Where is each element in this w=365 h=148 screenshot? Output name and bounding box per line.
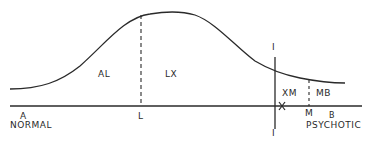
point-label-M: M [305, 109, 313, 118]
cutoff-top-label: I [272, 43, 275, 52]
region-label-XM: XM [282, 89, 297, 98]
point-label-L: L [138, 112, 144, 121]
region-label-MB: MB [316, 89, 331, 98]
region-label-LX: LX [165, 70, 177, 79]
axis-caption-psychotic: PSYCHOTIC [306, 121, 361, 130]
distribution-curve [10, 12, 345, 89]
axis-label-B: B [329, 112, 335, 120]
axis-caption-normal: NORMAL [10, 121, 52, 130]
region-label-AL: AL [98, 70, 110, 79]
cutoff-bottom-label: I [272, 129, 275, 138]
